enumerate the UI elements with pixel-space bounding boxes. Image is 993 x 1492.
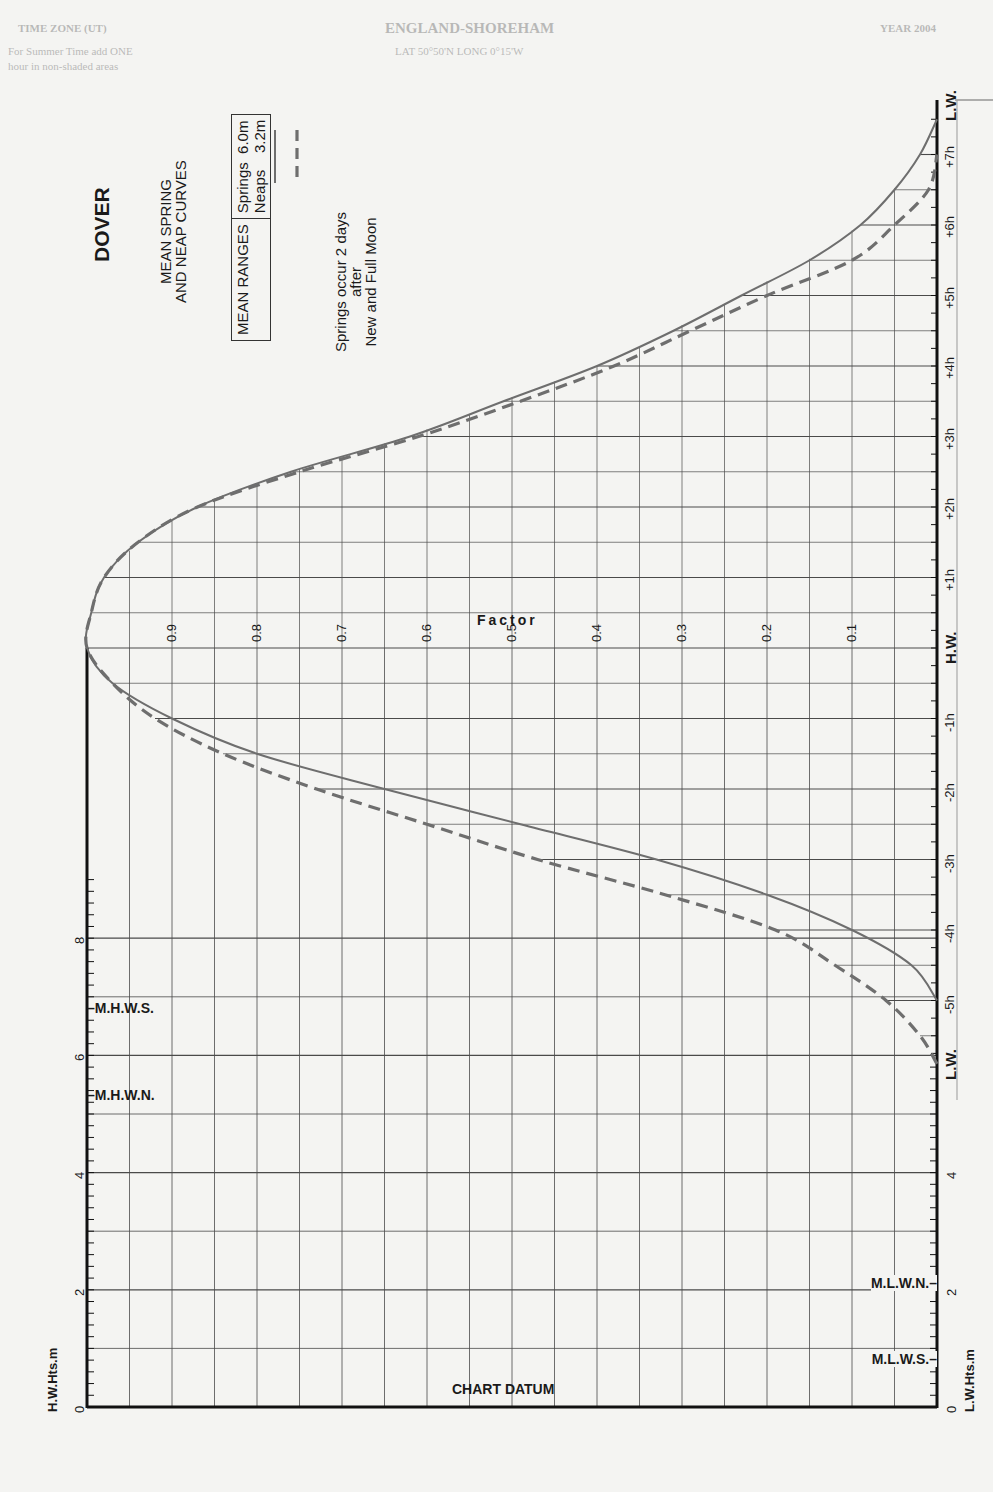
lw-height-tick: 2 bbox=[944, 1289, 959, 1296]
subtitle-line2: AND NEAP CURVES bbox=[173, 160, 188, 303]
note-line1: Springs occur 2 days bbox=[333, 212, 348, 352]
chart-datum-label: CHART DATUM bbox=[452, 1381, 554, 1397]
hw-height-tick: 0 bbox=[72, 1406, 87, 1413]
hw-height-tick: 6 bbox=[72, 1054, 87, 1061]
legend-lines bbox=[275, 130, 297, 183]
mean-ranges-box: MEAN RANGES Springs 6.0m Neaps 3.2m bbox=[231, 114, 271, 341]
time-tick: +3h bbox=[942, 427, 957, 449]
hw-height-tick: 2 bbox=[72, 1289, 87, 1296]
time-tick: -5h bbox=[942, 995, 957, 1014]
factor-tick: 0.4 bbox=[589, 624, 604, 642]
springs-range: Springs 6.0m bbox=[234, 120, 251, 213]
tidal-curve-chart bbox=[0, 0, 993, 1492]
chart-subtitle: MEAN SPRING AND NEAP CURVES bbox=[158, 160, 188, 303]
factor-tick: 0.9 bbox=[164, 624, 179, 642]
time-tick: L.W. bbox=[942, 90, 959, 121]
time-tick: +5h bbox=[942, 286, 957, 308]
grid-lines bbox=[87, 155, 937, 1408]
factor-tick: 0.6 bbox=[419, 624, 434, 642]
chart-title: DOVER bbox=[90, 187, 114, 262]
lw-height-tick: 4 bbox=[944, 1171, 959, 1178]
lw-axis-label: L.W.Hts.m bbox=[962, 1349, 977, 1412]
time-tick: +1h bbox=[942, 568, 957, 590]
hw-height-tick: 8 bbox=[72, 937, 87, 944]
hw-height-tick: 4 bbox=[72, 1171, 87, 1178]
note-line2: after bbox=[348, 212, 363, 352]
hw-mark: –M.H.W.S. bbox=[87, 1000, 154, 1016]
subtitle-line1: MEAN SPRING bbox=[158, 160, 173, 303]
neaps-range: Neaps 3.2m bbox=[251, 120, 268, 213]
hw-axis-label: H.W.Hts.m bbox=[45, 1348, 60, 1412]
time-tick: -3h bbox=[942, 854, 957, 873]
time-tick: -2h bbox=[942, 783, 957, 802]
lw-height-tick: 0 bbox=[944, 1406, 959, 1413]
time-tick: +7h bbox=[942, 145, 957, 167]
time-tick: -1h bbox=[942, 713, 957, 732]
note-line3: New and Full Moon bbox=[363, 212, 378, 352]
time-tick: +6h bbox=[942, 216, 957, 238]
time-tick: L.W. bbox=[942, 1049, 959, 1080]
factor-tick: 0.7 bbox=[334, 624, 349, 642]
hw-mark: –M.H.W.N. bbox=[87, 1087, 155, 1103]
factor-tick: 0.1 bbox=[844, 624, 859, 642]
lw-mark: M.L.W.N.– bbox=[871, 1275, 937, 1291]
factor-tick: 0.2 bbox=[759, 624, 774, 642]
time-tick: H.W. bbox=[942, 632, 959, 665]
mean-ranges-header: MEAN RANGES bbox=[232, 218, 270, 340]
factor-tick: 0.3 bbox=[674, 624, 689, 642]
time-tick: +2h bbox=[942, 498, 957, 520]
springs-note: Springs occur 2 days after New and Full … bbox=[333, 212, 378, 352]
factor-tick: 0.5 bbox=[504, 624, 519, 642]
time-tick: -4h bbox=[942, 924, 957, 943]
lw-mark: M.L.W.S.– bbox=[872, 1351, 937, 1367]
factor-tick: 0.8 bbox=[249, 624, 264, 642]
time-tick: +4h bbox=[942, 357, 957, 379]
